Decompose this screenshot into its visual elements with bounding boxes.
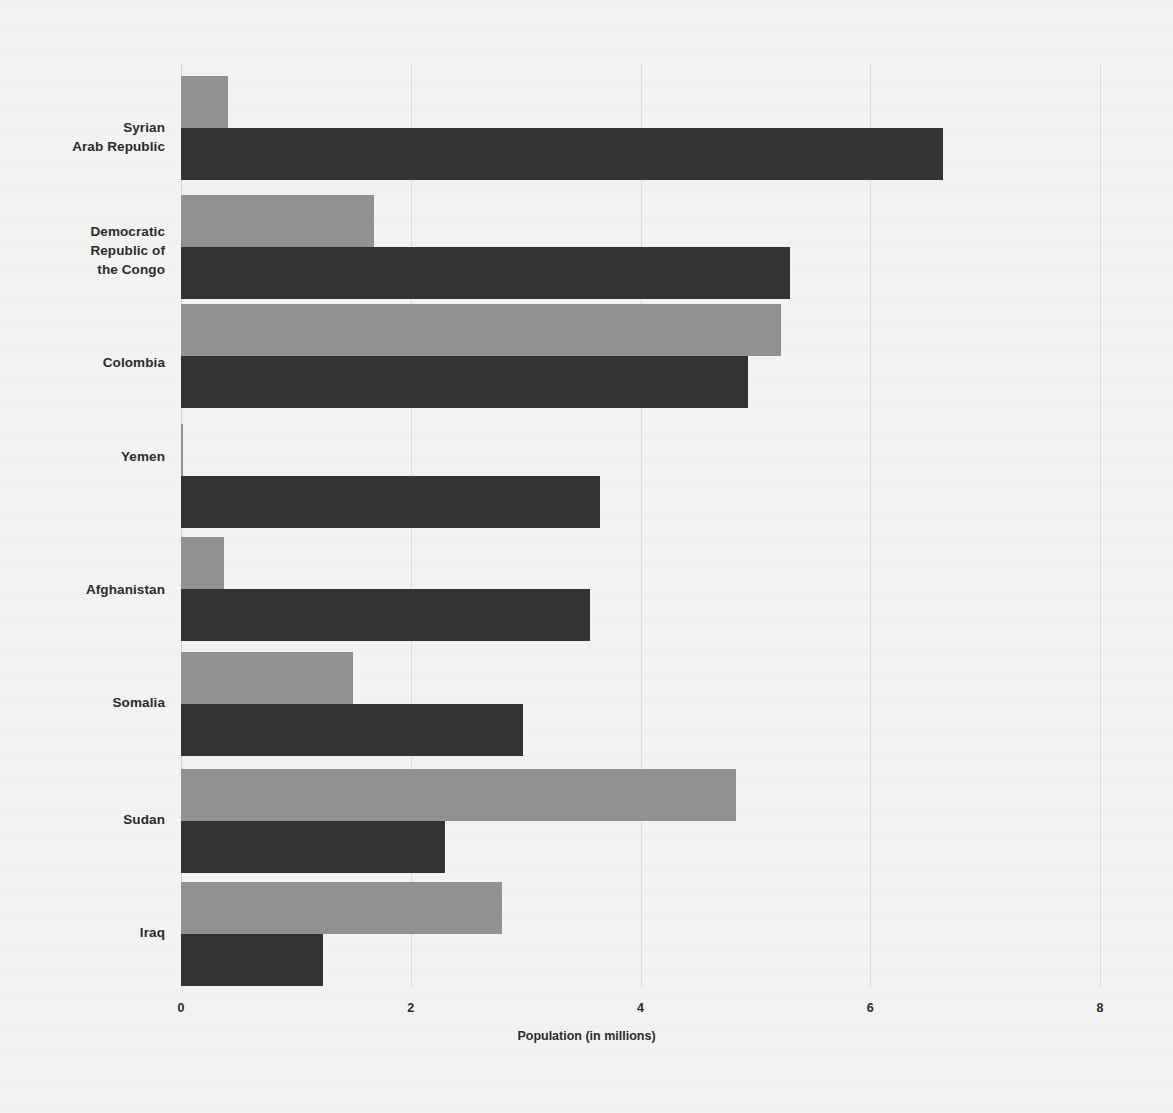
gridline-8: [1100, 64, 1101, 987]
x-axis-tick-6: 6: [840, 1001, 900, 1015]
bar-colombia-series-1[interactable]: [181, 304, 781, 356]
y-axis-label-sudan: Sudan: [0, 810, 165, 829]
x-axis-tick-8: 8: [1070, 1001, 1130, 1015]
bar-democratic-republic-of-the-congo-series-1[interactable]: [181, 195, 374, 247]
x-axis-title: Population (in millions): [0, 1029, 1173, 1043]
y-axis-label-democratic-republic-of-the-congo: DemocraticRepublic ofthe Congo: [0, 222, 165, 279]
y-axis-label-iraq: Iraq: [0, 923, 165, 942]
x-axis-tick-2: 2: [381, 1001, 441, 1015]
y-axis-label-somalia: Somalia: [0, 693, 165, 712]
bar-somalia-series-1[interactable]: [181, 652, 353, 704]
bar-iraq-series-2[interactable]: [181, 934, 323, 986]
bar-somalia-series-2[interactable]: [181, 704, 523, 756]
x-axis-tick-0: 0: [151, 1001, 211, 1015]
bar-group-colombia: [181, 304, 1100, 408]
x-axis-tick-4: 4: [611, 1001, 671, 1015]
bar-iraq-series-1[interactable]: [181, 882, 502, 934]
bar-sudan-series-2[interactable]: [181, 821, 445, 873]
bar-chart: SyrianArab Republic DemocraticRepublic o…: [0, 0, 1173, 1113]
bar-colombia-series-2[interactable]: [181, 356, 748, 408]
bar-group-iraq: [181, 882, 1100, 986]
y-axis-label-colombia: Colombia: [0, 353, 165, 372]
y-axis-label-syrian-arab-republic: SyrianArab Republic: [0, 118, 165, 156]
bar-group-yemen: [181, 424, 1100, 528]
bar-group-syrian-arab-republic: [181, 76, 1100, 180]
bar-sudan-series-1[interactable]: [181, 769, 736, 821]
y-axis-label-yemen: Yemen: [0, 447, 165, 466]
y-axis-label-afghanistan: Afghanistan: [0, 580, 165, 599]
bar-yemen-series-2[interactable]: [181, 476, 600, 528]
bar-afghanistan-series-2[interactable]: [181, 589, 590, 641]
bar-group-sudan: [181, 769, 1100, 873]
bar-group-afghanistan: [181, 537, 1100, 641]
bar-syrian-arab-republic-series-1[interactable]: [181, 76, 228, 128]
plot-area: [181, 64, 1100, 987]
bar-democratic-republic-of-the-congo-series-2[interactable]: [181, 247, 790, 299]
bar-yemen-series-1[interactable]: [181, 424, 183, 476]
bar-syrian-arab-republic-series-2[interactable]: [181, 128, 943, 180]
bar-group-democratic-republic-of-the-congo: [181, 195, 1100, 299]
bar-group-somalia: [181, 652, 1100, 756]
bar-afghanistan-series-1[interactable]: [181, 537, 224, 589]
